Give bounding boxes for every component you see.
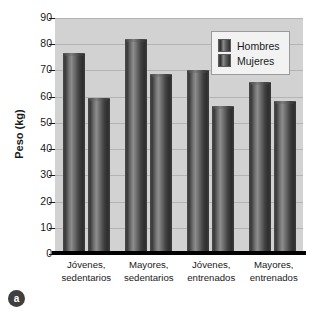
y-tick-label: 30: [12, 168, 52, 180]
legend: Hombres Mujeres: [211, 31, 290, 75]
x-category-label-line: Jóvenes,: [55, 258, 118, 271]
gridline: [55, 18, 303, 19]
x-category-label-line: entrenados: [243, 271, 306, 284]
y-tick-label: 0: [12, 247, 52, 259]
x-category-label: Jóvenes,entrenados: [180, 258, 243, 284]
legend-swatch-icon: [218, 39, 231, 52]
bar-mujeres: [274, 101, 296, 255]
y-tick-label: 70: [12, 63, 52, 75]
bar-hombres: [249, 82, 271, 255]
x-category-label: Mayores,sedentarios: [118, 258, 181, 284]
bar-mujeres: [88, 98, 110, 255]
bar-mujeres: [212, 106, 234, 255]
y-axis-label: Peso (kg): [13, 89, 25, 179]
bar-chart-figure: Peso (kg) 0102030405060708090 Hombres Mu…: [0, 0, 320, 315]
x-category-label-line: sedentarios: [118, 271, 181, 284]
bar-hombres: [63, 53, 85, 255]
y-tick-label: 90: [12, 11, 52, 23]
y-tick-label: 60: [12, 90, 52, 102]
x-category-label: Jóvenes,sedentarios: [55, 258, 118, 284]
legend-swatch-icon: [218, 54, 231, 67]
x-axis-category-labels: Jóvenes,sedentariosMayores,sedentariosJó…: [55, 258, 305, 284]
x-axis-line: [52, 251, 306, 255]
y-tick-label: 40: [12, 142, 52, 154]
x-category-label-line: Mayores,: [118, 258, 181, 271]
y-tick-label: 20: [12, 195, 52, 207]
x-category-label-line: entrenados: [180, 271, 243, 284]
y-tick-label: 10: [12, 221, 52, 233]
legend-label: Mujeres: [237, 55, 274, 67]
x-category-label: Mayores,entrenados: [243, 258, 306, 284]
panel-marker: a: [8, 290, 25, 307]
y-tick-label: 80: [12, 37, 52, 49]
legend-item-mujeres: Mujeres: [218, 54, 280, 67]
x-category-label-line: Mayores,: [243, 258, 306, 271]
legend-item-hombres: Hombres: [218, 39, 280, 52]
bar-mujeres: [150, 74, 172, 255]
x-category-label-line: sedentarios: [55, 271, 118, 284]
bar-hombres: [125, 39, 147, 255]
y-tick-label: 50: [12, 116, 52, 128]
bar-hombres: [187, 70, 209, 255]
x-category-label-line: Jóvenes,: [180, 258, 243, 271]
legend-label: Hombres: [237, 40, 280, 52]
